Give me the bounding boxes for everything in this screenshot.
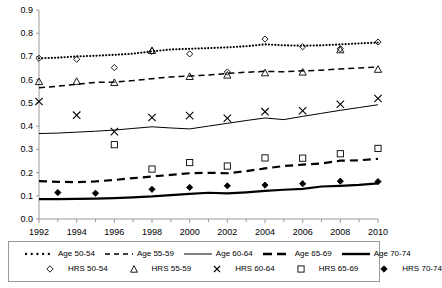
x-axis-tick-label: 2004 bbox=[255, 227, 275, 237]
series-marker-hrs-55-59 bbox=[374, 66, 381, 73]
series-line-age-70-74 bbox=[39, 183, 378, 199]
y-axis-tick-label: 0.5 bbox=[20, 98, 33, 108]
series-line-age-60-64 bbox=[39, 105, 378, 134]
y-axis-tick-label: 0.6 bbox=[20, 75, 33, 85]
series-marker-hrs-70-74 bbox=[187, 184, 193, 190]
thick-solid-line-key bbox=[341, 249, 371, 259]
x-axis-tick-label: 2010 bbox=[368, 227, 388, 237]
triangle-open-marker bbox=[119, 264, 149, 274]
dotted-line-key bbox=[25, 249, 55, 259]
series-line-age-50-54 bbox=[39, 43, 378, 59]
legend-item-label: Age 65-69 bbox=[295, 249, 332, 259]
series-marker-hrs-70-74 bbox=[224, 183, 230, 189]
series-marker-hrs-65-69 bbox=[187, 159, 193, 165]
series-marker-hrs-65-69 bbox=[375, 145, 381, 151]
cross-marker bbox=[202, 264, 232, 274]
x-axis-tick-label: 1998 bbox=[142, 227, 162, 237]
x-axis-tick-label: 1992 bbox=[29, 227, 49, 237]
series-marker-hrs-50-54 bbox=[111, 64, 117, 70]
series-marker-hrs-70-74 bbox=[149, 186, 155, 192]
legend-item-hrs-70-74: HRS 70-74 bbox=[369, 264, 442, 274]
series-marker-hrs-70-74 bbox=[337, 178, 343, 184]
legend-item-label: Age 70-74 bbox=[374, 249, 411, 259]
series-marker-hrs-65-69 bbox=[337, 151, 343, 157]
x-axis-tick-label: 2002 bbox=[217, 227, 237, 237]
series-marker-hrs-50-54 bbox=[262, 36, 268, 42]
series-line-age-55-59 bbox=[39, 67, 378, 88]
series-marker-hrs-70-74 bbox=[262, 182, 268, 188]
series-marker-hrs-65-69 bbox=[300, 155, 306, 161]
legend-row-lines: Age 50-54Age 55-59Age 60-64Age 65-69Age … bbox=[11, 246, 377, 261]
legend-item-age-55-59: Age 55-59 bbox=[104, 249, 174, 259]
series-marker-hrs-55-59 bbox=[261, 69, 268, 76]
x-axis-tick-label: 2008 bbox=[330, 227, 350, 237]
series-line-age-65-69 bbox=[39, 159, 378, 182]
series-marker-hrs-70-74 bbox=[92, 190, 98, 196]
legend-row-markers: HRS 50-54HRS 55-59HRS 60-64HRS 65-69HRS … bbox=[11, 261, 377, 276]
diamond-filled-marker bbox=[369, 264, 399, 274]
line-chart-plot: 0.00.10.20.30.40.50.60.70.80.91992199419… bbox=[0, 0, 388, 240]
chart-legend: Age 50-54Age 55-59Age 60-64Age 65-69Age … bbox=[8, 241, 380, 282]
legend-item-label: HRS 60-64 bbox=[235, 264, 275, 274]
series-marker-hrs-65-69 bbox=[224, 163, 230, 169]
y-axis-tick-label: 0.4 bbox=[20, 121, 33, 131]
y-axis-tick-label: 0.1 bbox=[20, 191, 33, 201]
legend-item-age-70-74: Age 70-74 bbox=[341, 249, 411, 259]
legend-item-label: Age 55-59 bbox=[137, 249, 174, 259]
series-marker-hrs-70-74 bbox=[55, 189, 61, 195]
legend-item-label: Age 50-54 bbox=[58, 249, 95, 259]
series-marker-hrs-65-69 bbox=[111, 142, 117, 148]
thick-dashed-line-key bbox=[262, 249, 292, 259]
legend-item-hrs-65-69: HRS 65-69 bbox=[286, 264, 359, 274]
legend-item-age-60-64: Age 60-64 bbox=[183, 249, 253, 259]
y-axis-tick-label: 0.7 bbox=[20, 51, 33, 61]
diamond-open-marker bbox=[35, 264, 65, 274]
series-marker-hrs-70-74 bbox=[300, 181, 306, 187]
x-axis-tick-label: 1996 bbox=[104, 227, 124, 237]
legend-item-hrs-50-54: HRS 50-54 bbox=[35, 264, 108, 274]
legend-item-label: HRS 70-74 bbox=[402, 264, 442, 274]
series-marker-hrs-50-54 bbox=[187, 51, 193, 57]
y-axis-tick-label: 0.2 bbox=[20, 168, 33, 178]
dashed-line-key bbox=[104, 249, 134, 259]
y-axis-tick-label: 0.8 bbox=[20, 28, 33, 38]
x-axis-tick-label: 2000 bbox=[180, 227, 200, 237]
y-axis-tick-label: 0.0 bbox=[20, 214, 33, 224]
series-marker-hrs-65-69 bbox=[262, 155, 268, 161]
series-marker-hrs-65-69 bbox=[149, 166, 155, 172]
series-marker-hrs-55-59 bbox=[299, 69, 306, 76]
legend-item-hrs-55-59: HRS 55-59 bbox=[119, 264, 192, 274]
legend-item-label: HRS 65-69 bbox=[319, 264, 359, 274]
y-axis-tick-label: 0.9 bbox=[20, 5, 33, 15]
y-axis-tick-label: 0.3 bbox=[20, 144, 33, 154]
legend-item-age-65-69: Age 65-69 bbox=[262, 249, 332, 259]
legend-item-hrs-60-64: HRS 60-64 bbox=[202, 264, 275, 274]
legend-item-age-50-54: Age 50-54 bbox=[25, 249, 95, 259]
legend-item-label: Age 60-64 bbox=[216, 249, 253, 259]
legend-item-label: HRS 55-59 bbox=[152, 264, 192, 274]
x-axis-tick-label: 1994 bbox=[67, 227, 87, 237]
legend-item-label: HRS 50-54 bbox=[68, 264, 108, 274]
x-axis-tick-label: 2006 bbox=[293, 227, 313, 237]
thin-solid-line-key bbox=[183, 249, 213, 259]
square-open-marker bbox=[286, 264, 316, 274]
